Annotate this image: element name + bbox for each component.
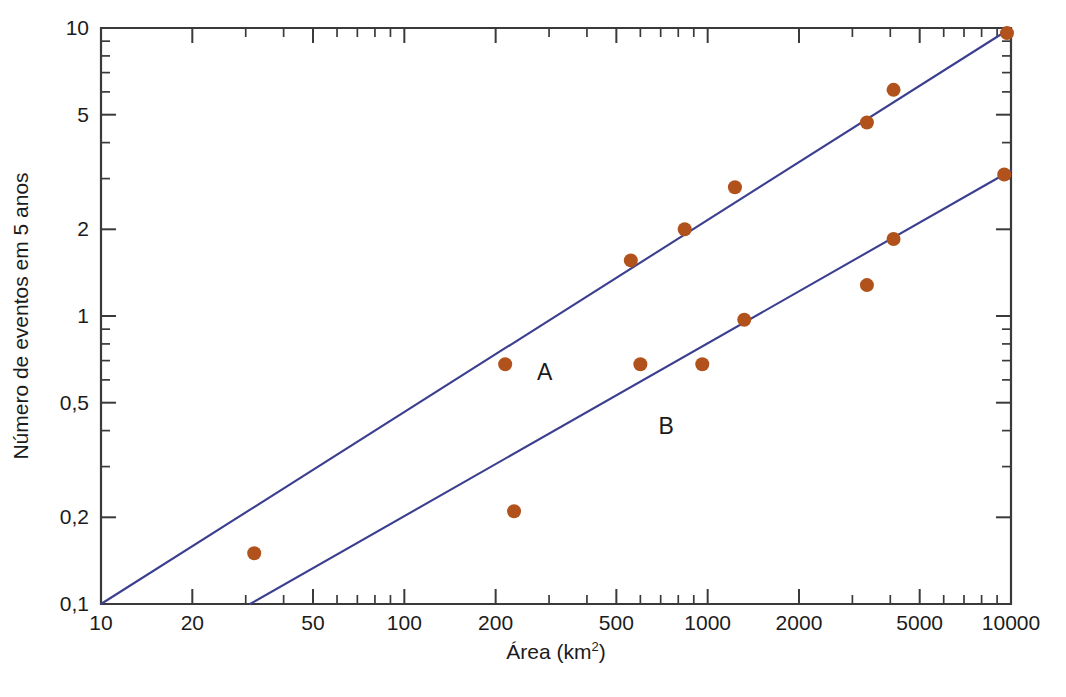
data-point-B-5	[887, 232, 901, 246]
data-point-B-3	[737, 313, 751, 327]
plot-background	[0, 0, 1066, 697]
y-tick-label-0-2: 0,2	[60, 505, 89, 528]
x-tick-label-200: 200	[478, 611, 513, 634]
y-tick-label-5: 5	[77, 103, 89, 126]
y-tick-label-1: 1	[77, 304, 89, 327]
data-point-A-2	[624, 253, 638, 267]
x-tick-label-2000: 2000	[776, 611, 823, 634]
data-point-A-5	[860, 115, 874, 129]
y-tick-label-0-1: 0,1	[60, 592, 89, 615]
series-annotation-B: B	[659, 413, 674, 439]
series-annotation-A: A	[537, 359, 553, 385]
y-tick-label-0-5: 0,5	[60, 391, 89, 414]
data-point-A-4	[728, 180, 742, 194]
data-point-A-1	[498, 357, 512, 371]
x-tick-label-10000: 10000	[982, 611, 1040, 634]
data-point-B-6	[997, 167, 1011, 181]
x-tick-label-1000: 1000	[684, 611, 731, 634]
data-point-A-3	[678, 222, 692, 236]
y-tick-label-10: 10	[66, 16, 89, 39]
data-point-B-0	[507, 504, 521, 518]
data-point-A-6	[887, 83, 901, 97]
x-tick-label-50: 50	[301, 611, 324, 634]
y-axis-title: Número de eventos em 5 anos	[9, 172, 32, 459]
chart-figure: 10205010020050010002000500010000 105210,…	[0, 0, 1066, 697]
x-tick-label-100: 100	[387, 611, 422, 634]
x-tick-label-5000: 5000	[896, 611, 943, 634]
y-tick-label-2: 2	[77, 217, 89, 240]
data-point-B-1	[633, 357, 647, 371]
scatter-plot-log-log: 10205010020050010002000500010000 105210,…	[0, 0, 1066, 697]
data-point-A-0	[247, 546, 261, 560]
data-point-B-2	[695, 357, 709, 371]
x-axis-title: Área (km2)	[506, 639, 605, 663]
data-point-B-4	[860, 278, 874, 292]
x-tick-label-500: 500	[599, 611, 634, 634]
x-tick-label-10: 10	[89, 611, 112, 634]
data-point-A-7	[1000, 26, 1014, 40]
x-tick-label-20: 20	[181, 611, 204, 634]
